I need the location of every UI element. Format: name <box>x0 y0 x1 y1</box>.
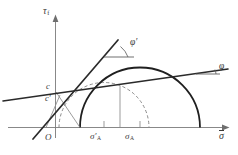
sigma-a-effective-label: σ′A <box>90 132 101 141</box>
tau-axis-arrowhead <box>53 15 59 23</box>
sigma-a-total-symbol: σ <box>125 131 129 141</box>
origin-label: O <box>45 133 52 142</box>
sigma-a-total-subscript: A <box>130 135 134 141</box>
tau-f-axis-label: τf <box>43 6 49 16</box>
mohr-circle-solid <box>80 68 200 128</box>
sigma-axis-label: σ <box>219 130 224 141</box>
sigma-a-effective-subscript: A <box>97 135 101 141</box>
sigma-symbol: σ <box>219 130 224 141</box>
cohesion-effective-label: c′ <box>45 94 51 103</box>
sigma-a-total-label: σA <box>125 132 134 141</box>
envelope-line-total <box>3 69 228 101</box>
mohr-circle-dashed <box>59 83 149 128</box>
figure-canvas <box>0 0 238 155</box>
cohesion-total-label: c <box>46 82 50 91</box>
phi-prime-label: φ′ <box>130 38 137 48</box>
phi-label: φ <box>219 62 224 72</box>
tau-subscript: f <box>47 9 49 16</box>
phi-prime-angle-arc <box>121 47 129 58</box>
mohr-coulomb-figure: τf σ φ′ φ c c′ O σ′A σA <box>0 0 238 155</box>
